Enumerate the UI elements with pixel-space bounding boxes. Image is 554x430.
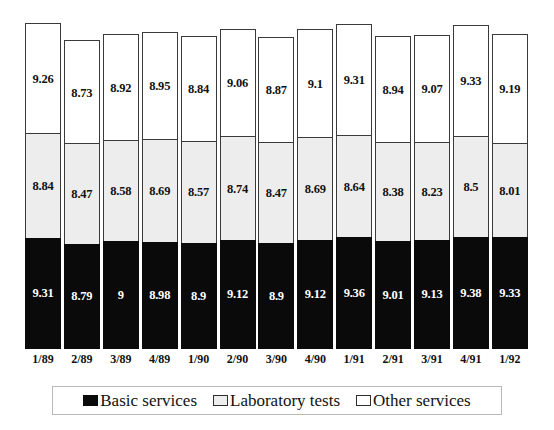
bar-value-label: 9.19 (499, 83, 520, 96)
bar-segment: 8.5 (453, 136, 489, 238)
bar-value-label: 9.12 (305, 288, 326, 301)
bar-value-label: 8.64 (344, 181, 365, 194)
white-swatch-icon (356, 395, 371, 406)
bar-value-label: 8.94 (383, 84, 404, 97)
bar-value-label: 9.07 (421, 83, 442, 96)
bar-value-label: 8.23 (421, 186, 442, 199)
bar-segment: 8.92 (103, 34, 139, 141)
bar-value-label: 9.01 (383, 289, 404, 302)
bar-segment: 9.12 (297, 240, 333, 349)
bar-value-label: 8.9 (191, 290, 206, 303)
bar-value-label: 9.33 (460, 75, 481, 88)
bar-segment: 9.33 (492, 237, 528, 349)
bar-value-label: 9.12 (227, 288, 248, 301)
bar-segment: 8.57 (181, 141, 217, 244)
legend-item: Laboratory tests (213, 391, 340, 410)
bar-segment: 8.87 (258, 37, 294, 143)
bar-segment: 8.9 (258, 243, 294, 350)
x-axis-tick-label: 4/89 (142, 351, 178, 367)
bar-segment: 9.33 (453, 25, 489, 137)
x-axis-tick-label: 4/91 (453, 351, 489, 367)
bar-group: 9.268.849.31 (25, 23, 61, 349)
bar-segment: 8.64 (336, 135, 372, 238)
legend-item-label: Laboratory tests (230, 391, 340, 410)
bar-group: 9.338.59.38 (453, 25, 489, 349)
bar-value-label: 8.84 (32, 180, 53, 193)
bar-value-label: 9.06 (227, 77, 248, 90)
bar-segment: 9 (103, 241, 139, 349)
bar-value-label: 9.38 (460, 287, 481, 300)
stacked-bar-chart: 9.268.849.318.738.478.798.928.5898.958.6… (0, 0, 554, 430)
bar-group: 9.068.749.12 (220, 29, 256, 349)
bar-value-label: 8.5 (463, 181, 478, 194)
bar-segment: 8.98 (142, 242, 178, 349)
x-axis-tick-label: 2/89 (64, 351, 100, 367)
bar-value-label: 8.74 (227, 183, 248, 196)
bar-value-label: 9 (118, 289, 124, 302)
bar-value-label: 8.69 (149, 185, 170, 198)
bar-value-label: 8.47 (266, 187, 287, 200)
bar-value-label: 8.92 (110, 82, 131, 95)
bar-segment: 9.36 (336, 237, 372, 349)
x-axis-tick-label: 3/89 (103, 351, 139, 367)
bar-value-label: 9.26 (32, 73, 53, 86)
bar-segment: 8.47 (64, 143, 100, 244)
x-axis-tick-label: 4/90 (297, 351, 333, 367)
bar-segment: 9.1 (297, 29, 333, 138)
bar-segment: 8.84 (181, 36, 217, 142)
bar-value-label: 8.79 (71, 290, 92, 303)
gray-swatch-icon (213, 395, 228, 406)
bar-value-label: 8.58 (110, 185, 131, 198)
bar-group: 9.078.239.13 (414, 35, 450, 349)
x-axis-tick-label: 2/91 (375, 351, 411, 367)
legend-item: Other services (356, 391, 471, 410)
bar-segment: 8.47 (258, 142, 294, 243)
x-axis-labels: 1/892/893/894/891/902/903/904/901/912/91… (25, 351, 530, 369)
bar-segment: 8.79 (64, 244, 100, 349)
bar-segment: 8.95 (142, 32, 178, 139)
bar-value-label: 8.98 (149, 289, 170, 302)
x-axis-tick-label: 3/91 (414, 351, 450, 367)
bar-group: 8.848.578.9 (181, 36, 217, 349)
bar-segment: 9.38 (453, 237, 489, 349)
legend-item-label: Other services (373, 391, 471, 410)
bar-group: 9.318.649.36 (336, 24, 372, 349)
bar-value-label: 8.73 (71, 87, 92, 100)
bar-group: 8.878.478.9 (258, 37, 294, 349)
bar-value-label: 8.57 (188, 186, 209, 199)
bar-segment: 8.9 (181, 243, 217, 350)
bar-value-label: 8.38 (383, 186, 404, 199)
bar-segment: 8.01 (492, 143, 528, 239)
bar-value-label: 8.84 (188, 83, 209, 96)
x-axis-tick-label: 3/90 (258, 351, 294, 367)
x-axis-tick-label: 2/90 (220, 351, 256, 367)
bar-value-label: 8.9 (269, 290, 284, 303)
bar-segment: 8.73 (64, 40, 100, 144)
bar-group: 8.958.698.98 (142, 32, 178, 349)
bar-segment: 9.13 (414, 240, 450, 349)
bar-segment: 8.23 (414, 142, 450, 240)
x-axis-tick-label: 1/89 (25, 351, 61, 367)
bar-segment: 9.19 (492, 34, 528, 144)
bar-segment: 8.94 (375, 36, 411, 143)
bar-segment: 9.01 (375, 241, 411, 349)
legend-item-label: Basic services (100, 391, 197, 410)
bar-group: 9.18.699.12 (297, 29, 333, 349)
bar-value-label: 8.87 (266, 84, 287, 97)
x-axis-tick-label: 1/92 (492, 351, 528, 367)
bar-value-label: 9.36 (344, 287, 365, 300)
bar-segment: 9.26 (25, 23, 61, 134)
bar-value-label: 9.33 (499, 287, 520, 300)
bar-value-label: 8.47 (71, 188, 92, 201)
bar-segment: 8.74 (220, 136, 256, 241)
bar-segment: 9.06 (220, 29, 256, 137)
bar-segment: 9.07 (414, 35, 450, 144)
bar-value-label: 8.01 (499, 185, 520, 198)
bar-group: 8.948.389.01 (375, 36, 411, 349)
bar-segment: 8.69 (142, 139, 178, 243)
bar-segment: 8.69 (297, 137, 333, 241)
chart-legend: Basic servicesLaboratory testsOther serv… (52, 386, 502, 415)
x-axis-tick-label: 1/91 (336, 351, 372, 367)
bar-value-label: 9.13 (421, 288, 442, 301)
bar-value-label: 9.31 (344, 74, 365, 87)
